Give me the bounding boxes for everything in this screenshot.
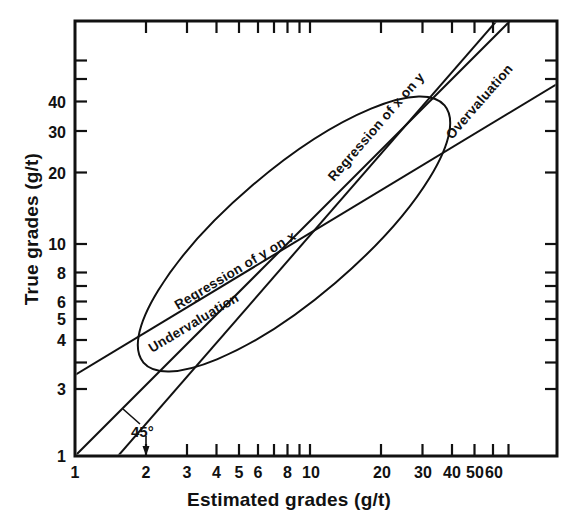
- x-tick-label-5: 5: [235, 464, 244, 481]
- x-axis-title: Estimated grades (g/t): [0, 489, 578, 511]
- angle-45-label: 45°: [131, 423, 154, 440]
- x-tick-label-30: 30: [414, 464, 432, 481]
- regression-x-on-y-label: Regression of x on y: [325, 69, 427, 184]
- x-tick-label-50: 50: [466, 464, 484, 481]
- y-tick-label-30: 30: [48, 124, 66, 141]
- y-tick-label-4: 4: [57, 332, 66, 349]
- curve-labels: Regression of y on x Undervaluation Regr…: [146, 61, 516, 355]
- x-tick-label-6: 6: [254, 464, 263, 481]
- x-axis-ticks: [146, 444, 509, 456]
- chart-canvas: 1 2 3 4 5 6 8 10 20 30 40 50 60 1 3 4 5 …: [0, 0, 578, 529]
- y-axis-ticks-right: [545, 61, 557, 390]
- x-tick-label-8: 8: [283, 464, 292, 481]
- y-tick-label-3: 3: [57, 381, 66, 398]
- x-tick-label-1: 1: [71, 464, 80, 481]
- x-tick-label-4: 4: [212, 464, 221, 481]
- y-axis-title-wrapper: True grades (g/t): [21, 89, 43, 369]
- y-axis-ticks: [75, 61, 87, 390]
- y-tick-label-8: 8: [57, 265, 66, 282]
- x-axis-ticks-top: [146, 21, 509, 33]
- x-tick-labels: 1 2 3 4 5 6 8 10 20 30 40 50 60: [71, 464, 503, 481]
- y-tick-label-10: 10: [48, 236, 66, 253]
- x-tick-label-20: 20: [373, 464, 391, 481]
- x-tick-label-10: 10: [302, 464, 320, 481]
- y-tick-label-40: 40: [48, 94, 66, 111]
- x-tick-label-40: 40: [443, 464, 461, 481]
- angle-45-leader-line: [123, 409, 140, 424]
- y-tick-label-1: 1: [57, 448, 66, 465]
- y-axis-title: True grades (g/t): [21, 153, 43, 305]
- x-tick-label-3: 3: [183, 464, 192, 481]
- figure-container: 1 2 3 4 5 6 8 10 20 30 40 50 60 1 3 4 5 …: [0, 0, 578, 529]
- x-tick-label-2: 2: [142, 464, 151, 481]
- angle-45-annotation: 45°: [123, 409, 154, 456]
- y-tick-label-6: 6: [57, 294, 66, 311]
- y-tick-label-20: 20: [48, 165, 66, 182]
- y-tick-labels: 1 3 4 5 6 8 10 20 30 40: [48, 94, 66, 465]
- x-tick-label-60: 60: [485, 464, 503, 481]
- y-tick-label-5: 5: [57, 311, 66, 328]
